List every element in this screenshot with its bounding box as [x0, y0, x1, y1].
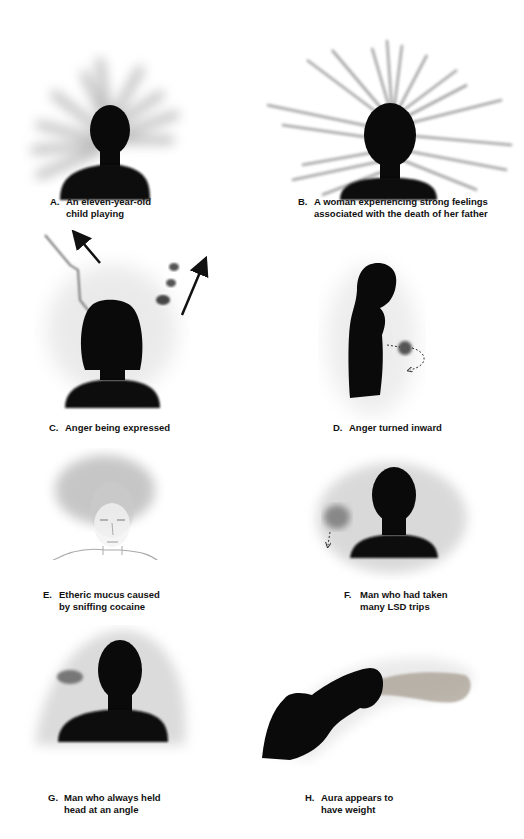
figure-letter: E. — [43, 589, 59, 601]
caption-line: Etheric mucus caused — [59, 589, 160, 600]
child-aura-rays-icon — [0, 0, 262, 205]
caption-line: head at an angle — [64, 804, 138, 815]
caption-line: Aura appears to — [321, 792, 393, 803]
figure-letter: B. — [298, 196, 314, 208]
figure-letter: H. — [305, 792, 321, 804]
caption-line: have weight — [321, 804, 375, 815]
figure-b: B.A woman experiencing strong feelings a… — [262, 0, 524, 230]
caption-line: many LSD trips — [360, 601, 430, 612]
figure-c — [0, 230, 262, 420]
figure-letter: F. — [344, 589, 360, 601]
figure-h — [250, 640, 524, 770]
caption-line: by sniffing cocaine — [59, 601, 145, 612]
caption-line: Man who had taken — [360, 589, 448, 600]
lsd-aura-patches-icon — [262, 440, 524, 580]
figure-g — [0, 625, 262, 755]
caption-line: child playing — [66, 208, 124, 219]
figure-a: A.An eleven-year-old child playing — [0, 0, 262, 230]
figure-d — [262, 230, 524, 420]
caption-line: Anger being expressed — [65, 422, 170, 433]
caption-line: Anger turned inward — [349, 422, 442, 433]
figure-f — [262, 440, 524, 600]
caption-line: associated with the death of her father — [314, 208, 488, 219]
woman-aura-spikes-icon — [262, 0, 524, 205]
caption-line: Man who always held — [64, 792, 161, 803]
sketched-face-mucus-icon — [0, 440, 262, 560]
figure-letter: G. — [48, 792, 64, 804]
anger-inward-profile-icon — [262, 230, 524, 420]
figure-letter: C. — [49, 422, 65, 434]
caption-line: A woman experiencing strong feelings — [314, 196, 488, 207]
bent-figure-heavy-aura-icon — [250, 640, 524, 770]
tilted-head-aura-icon — [0, 625, 262, 755]
figure-e — [0, 440, 262, 600]
figure-letter: D. — [333, 422, 349, 434]
anger-expressed-arrows-icon — [0, 230, 262, 420]
caption-line: An eleven-year-old — [66, 196, 151, 207]
figure-letter: A. — [50, 196, 66, 208]
